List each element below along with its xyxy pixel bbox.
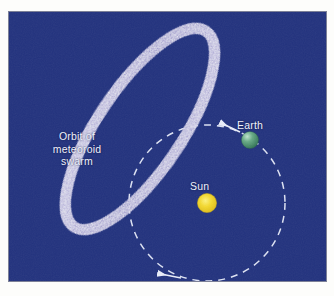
diagram-canvas xyxy=(9,12,326,281)
print-grain xyxy=(9,12,326,281)
meteoroid-swarm-diagram: Orbit of meteoroid swarm Sun Earth xyxy=(0,0,334,296)
diagram-panel: Orbit of meteoroid swarm Sun Earth xyxy=(9,12,326,281)
